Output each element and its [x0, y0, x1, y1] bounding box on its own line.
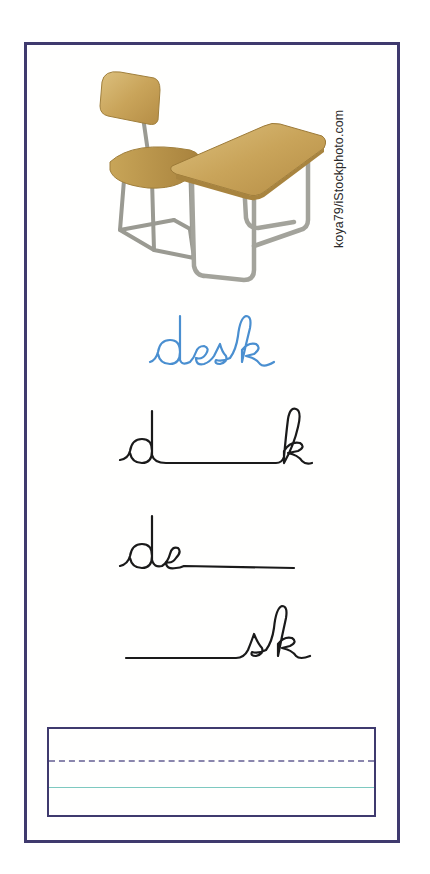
- photo-credit: koya79/iStockphoto.com: [332, 110, 346, 248]
- writing-area-label: handwriting practice lines: [49, 729, 50, 730]
- exercise-3-blank-sk: ___sk: [118, 600, 313, 670]
- desk-chair-image: [94, 70, 334, 290]
- baseline: [49, 787, 374, 788]
- model-word-desk: desk: [148, 310, 278, 370]
- dashed-midline: [49, 760, 374, 762]
- handwriting-practice-box[interactable]: handwriting practice lines: [47, 727, 376, 817]
- exercise-1-d-blank-k: d___k: [118, 405, 313, 475]
- exercise-2-de-blank: de___: [118, 510, 313, 580]
